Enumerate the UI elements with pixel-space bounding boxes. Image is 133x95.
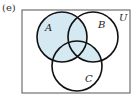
set-label-c: C [85, 73, 93, 84]
part-label: (e) [2, 2, 16, 13]
venn-diagram: (e) A B C U [0, 0, 133, 95]
universal-label: U [119, 12, 128, 23]
set-label-a: A [44, 22, 52, 33]
set-label-b: B [97, 19, 105, 30]
